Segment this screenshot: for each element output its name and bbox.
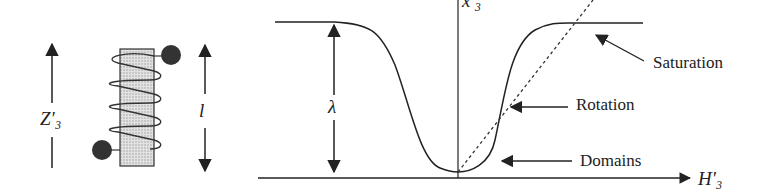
vertical-axis-label: x'₃ (462, 0, 481, 12)
z-axis-label: Z'₃ (40, 108, 61, 130)
terminal-bottom (92, 140, 112, 160)
saturation-label: Saturation (653, 53, 723, 73)
horizontal-axis-label: H'₃ (698, 168, 722, 190)
solenoid (92, 45, 181, 166)
rotation-label: Rotation (576, 95, 635, 115)
saturation-pointer (596, 35, 644, 61)
initial-slope-line (458, 0, 593, 172)
magnetostriction-diagram (0, 0, 766, 195)
length-label: l (199, 100, 204, 122)
lambda-label: λ (328, 96, 336, 118)
terminal-top (161, 45, 181, 65)
domains-label: Domains (580, 151, 641, 171)
magnetic-core (120, 49, 154, 166)
